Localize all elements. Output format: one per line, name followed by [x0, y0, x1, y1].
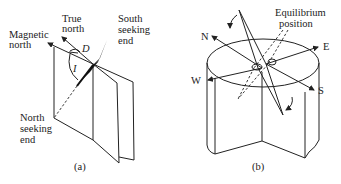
figure-a: Magnetic north True north South seeking … [9, 13, 151, 173]
figure-b: Equilibrium position N E W S (b) [191, 7, 329, 173]
label-north-seeking-3: end [20, 134, 36, 145]
caption-b: (b) [252, 161, 265, 173]
label-south-seeking-1: South [118, 13, 143, 24]
caption-a: (a) [74, 161, 86, 173]
cutaway-corner [305, 152, 309, 158]
rotation-arrow-bottom [286, 97, 292, 110]
label-inclination: I [72, 63, 77, 74]
cutaway-edges [215, 78, 305, 158]
rotation-arrow-top [230, 15, 237, 28]
label-south-seeking-2: seeking [118, 24, 151, 35]
needle-extension [54, 86, 77, 118]
label-east: E [323, 41, 329, 52]
label-true-north-2: north [62, 23, 85, 34]
label-equilibrium-1: Equilibrium [275, 7, 326, 18]
label-south-seeking-3: end [118, 35, 134, 46]
label-magnetic-north-2: north [9, 39, 32, 50]
label-north-seeking-2: seeking [20, 123, 53, 134]
label-west: W [191, 75, 201, 86]
label-north-seeking-1: North [20, 112, 45, 123]
reference-line [69, 52, 78, 53]
true-meridian-plane [93, 64, 119, 163]
label-north: N [201, 31, 209, 42]
north-seeking-needle [77, 65, 93, 86]
cylinder-top [207, 39, 319, 87]
label-equilibrium-2: position [279, 18, 314, 29]
east-arrow [266, 47, 318, 64]
label-south: S [318, 85, 324, 96]
label-declination: D [81, 43, 90, 54]
cylinder-left-side [207, 63, 215, 154]
figure-canvas: Magnetic north True north South seeking … [0, 0, 341, 184]
